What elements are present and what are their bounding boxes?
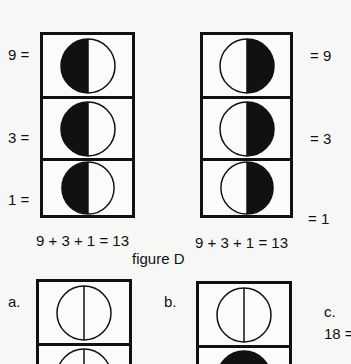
exercise-c-label: c. (324, 304, 336, 319)
half-dark-right-circle-icon (218, 100, 276, 158)
exercise-b-cell-1 (199, 284, 289, 345)
left-value-1-label: 1 = (8, 192, 29, 207)
exercise-a-label: a. (8, 294, 21, 309)
left-sum-equation: 9 + 3 + 1 = 13 (36, 233, 129, 248)
half-dark-left-circle-icon (60, 160, 116, 216)
exercise-a-box (36, 279, 132, 364)
left-figure-box (40, 32, 135, 218)
right-value-3-label: = 3 (310, 131, 331, 146)
left-value-9-label: 9 = (8, 47, 29, 62)
half-dark-left-circle-icon (59, 100, 117, 158)
empty-split-circle-icon (55, 284, 113, 342)
left-cell-9 (43, 35, 132, 96)
right-cell-9 (203, 35, 290, 96)
left-cell-3 (43, 96, 132, 158)
full-dark-circle-icon (215, 349, 273, 364)
exercise-a-cell-2 (39, 343, 129, 364)
exercise-a-cell-1 (39, 282, 129, 343)
left-cell-1 (43, 158, 132, 215)
half-dark-right-circle-icon (218, 37, 276, 95)
right-cell-1 (203, 158, 290, 215)
empty-split-circle-icon (215, 286, 273, 344)
half-dark-left-circle-icon (59, 37, 117, 95)
right-sum-equation: 9 + 3 + 1 = 13 (195, 235, 288, 250)
exercise-b-box (196, 281, 292, 364)
right-figure-box (200, 32, 293, 218)
exercise-b-cell-2 (199, 345, 289, 364)
exercise-c-value-label: 18 = (324, 326, 351, 341)
right-cell-3 (203, 96, 290, 158)
exercise-b-label: b. (164, 294, 177, 309)
figure-caption: figure D (132, 251, 185, 266)
half-dark-right-circle-icon (219, 160, 275, 216)
right-value-9-label: = 9 (310, 48, 331, 63)
right-value-1-label: = 1 (308, 211, 329, 226)
left-value-3-label: 3 = (8, 130, 29, 145)
empty-split-circle-icon (55, 347, 113, 364)
